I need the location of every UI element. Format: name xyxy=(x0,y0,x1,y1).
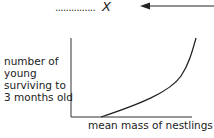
y-label-line: 3 months old xyxy=(4,91,74,103)
y-axis-label: number of young surviving to 3 months ol… xyxy=(4,55,74,103)
y-label-line: young xyxy=(4,67,74,79)
answer-blank: ............... xyxy=(55,2,95,13)
left-arrow-icon xyxy=(140,3,214,10)
survival-curve xyxy=(101,38,196,117)
cross-mark-icon: X xyxy=(102,0,111,14)
y-label-line: number of xyxy=(4,55,74,67)
y-label-line: surviving to xyxy=(4,79,74,91)
x-axis-label: mean mass of nestlings xyxy=(88,119,213,131)
